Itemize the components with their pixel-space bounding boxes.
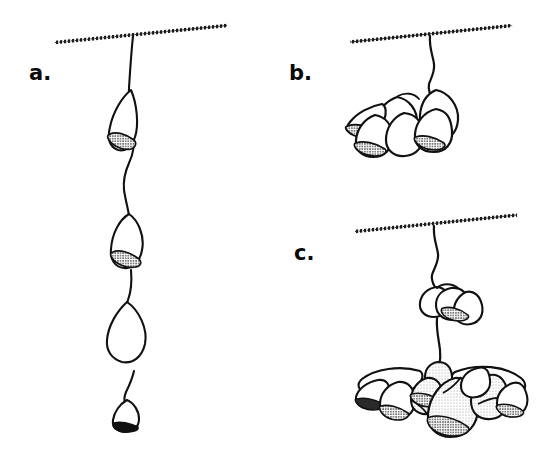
zooid — [111, 214, 143, 268]
zooid-cluster-c-upper — [420, 284, 483, 324]
stalk-c-lower — [437, 318, 441, 366]
zooid — [107, 302, 146, 362]
substrate-line-a — [55, 26, 227, 43]
panel-a — [55, 26, 227, 433]
zooid-colony-c-lower — [355, 362, 527, 437]
substrate-line-c — [355, 215, 517, 232]
substrate-line-b — [350, 26, 512, 43]
stalk-c-upper — [432, 226, 438, 290]
zooid-cluster-b — [346, 90, 458, 157]
panel-label-c: c. — [294, 243, 314, 264]
figure-container: a. b. c. — [0, 0, 537, 466]
panel-label-a: a. — [29, 63, 51, 84]
zooid — [113, 400, 139, 432]
panel-label-b: b. — [289, 63, 312, 84]
panel-b — [346, 26, 512, 158]
illustration-canvas — [0, 0, 537, 466]
panel-c — [355, 215, 527, 437]
zooid — [108, 90, 137, 150]
